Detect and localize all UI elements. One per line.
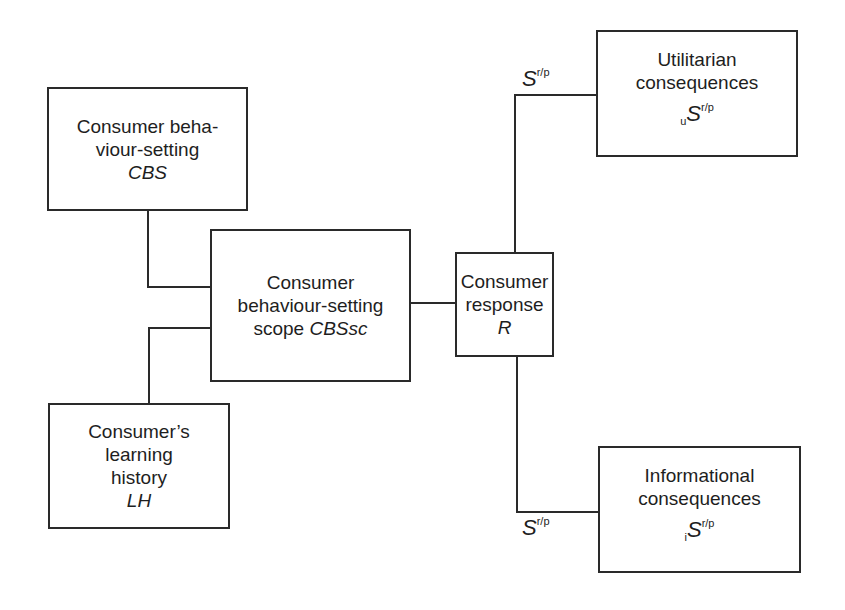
node-learning-history: Consumer’s learning history LH [48,403,230,529]
edge-symbol: S [522,66,537,91]
node-label: Consumer [461,270,549,293]
node-symbol: S [686,101,701,126]
edge-superscript: r/p [537,66,550,78]
node-symbol: R [498,316,512,339]
node-label: Informational [645,464,755,487]
node-label: viour-setting [96,138,200,161]
node-label: consequences [638,487,761,510]
edge-label-bottom: Sr/p [522,515,550,541]
node-label: Consumer beha- [77,115,219,138]
symbol-superscript: r/p [702,517,715,529]
connector-cbs-to-scope [147,286,211,288]
node-symbol: CBS [128,161,167,184]
node-symbol-group: iSr/p [685,510,715,550]
node-label: history [111,466,167,489]
node-label: response [465,293,543,316]
node-consumer-behaviour-setting: Consumer beha- viour-setting CBS [47,87,248,211]
node-symbol: S [687,517,702,542]
node-symbol-group: uSr/p [680,94,714,134]
node-behaviour-setting-scope: Consumer behaviour-setting scope CBSsc [210,229,411,382]
connector-cbs-down [147,209,149,287]
connector-scope-to-response [409,302,456,304]
connector-response-down [516,355,518,512]
connector-to-informational [516,511,599,513]
node-consumer-response: Consumer response R [455,252,554,357]
node-informational-consequences: Informational consequences iSr/p [598,446,801,573]
connector-lh-up [148,327,150,404]
node-label: Utilitarian [657,48,736,71]
node-label: behaviour-setting [238,294,384,317]
edge-superscript: r/p [537,515,550,527]
node-label: Consumer’s [88,420,190,443]
connector-response-up [514,95,516,253]
node-label: scope [253,318,309,339]
edge-label-top: Sr/p [522,66,550,92]
node-label-line3: scope CBSsc [253,317,367,340]
node-symbol: CBSsc [309,318,367,339]
node-utilitarian-consequences: Utilitarian consequences uSr/p [596,30,798,157]
node-symbol: LH [127,489,151,512]
node-label: learning [105,443,173,466]
symbol-superscript: r/p [701,101,714,113]
connector-to-utilitarian [514,94,597,96]
node-label: Consumer [267,271,355,294]
edge-symbol: S [522,515,537,540]
connector-lh-to-scope [148,327,211,329]
node-label: consequences [636,71,759,94]
